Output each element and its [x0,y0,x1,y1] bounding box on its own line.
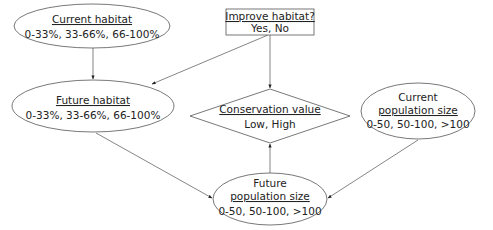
node-current-habitat: Current habitat 0-33%, 33-66%, 66-100% [14,4,170,48]
current-habitat-ellipse [14,4,170,48]
future-population-states: 0-50, 50-100, >100 [218,205,321,217]
current-population-title-line1: Current [398,91,437,103]
node-current-population-size: Current population size 0-50, 50-100, >1… [361,83,475,139]
current-habitat-states: 0-33%, 33-66%, 66-100% [25,28,160,40]
node-future-population-size: Future population size 0-50, 50-100, >10… [213,173,327,225]
node-future-habitat: Future habitat 0-33%, 33-66%, 66-100% [12,80,174,132]
current-population-title-line2: population size [378,104,458,116]
decision-network-diagram: Current habitat 0-33%, 33-66%, 66-100% I… [0,0,493,230]
conservation-value-title: Conservation value [219,103,320,115]
node-improve-habitat: Improve habitat? Yes, No [225,9,314,35]
conservation-value-states: Low, High [244,118,296,130]
future-population-title-line1: Future [253,177,286,189]
conservation-value-diamond [190,89,350,143]
future-habitat-ellipse [12,80,174,132]
future-habitat-states: 0-33%, 33-66%, 66-100% [26,109,161,121]
current-habitat-title: Current habitat [52,13,132,25]
improve-habitat-states: Yes, No [250,22,289,34]
edge-improve-habitat-to-future-habitat [152,35,268,84]
current-population-states: 0-50, 50-100, >100 [366,118,469,130]
future-population-title-line2: population size [230,190,310,202]
future-habitat-title: Future habitat [56,94,130,106]
edge-future-habitat-to-future-population [96,133,212,198]
edge-current-population-to-future-population [328,140,418,198]
improve-habitat-title: Improve habitat? [225,10,314,22]
node-conservation-value: Conservation value Low, High [190,89,350,143]
